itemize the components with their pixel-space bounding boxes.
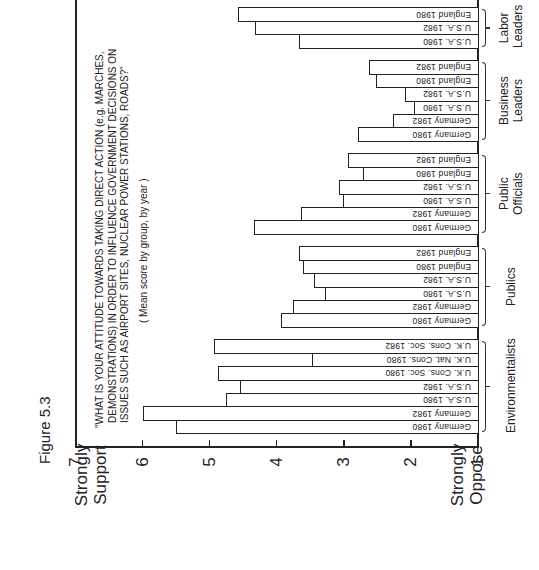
bar-label: Germany 1980: [328, 129, 471, 140]
bar-label: U.S.A. 1982: [328, 274, 471, 285]
bar-label: England 1982: [328, 154, 471, 165]
strongly-support-line-2: Support: [91, 420, 110, 530]
group-label-line: Labor: [497, 7, 511, 47]
bar-label: Germany 1980: [328, 222, 471, 233]
bar-label: U.S.A. 1980: [328, 36, 471, 47]
chart-subtitle: ( Mean score by group, by year ): [138, 49, 151, 428]
group-label-line: Business: [497, 60, 511, 141]
bar-label: U.S.A. 1982: [328, 88, 471, 99]
group-brace-tip: [486, 27, 490, 28]
tick-label: 4: [267, 452, 287, 472]
group-label-line: Publics: [504, 246, 518, 327]
bar-label: Germany 1980: [328, 315, 471, 326]
tick-label: 3: [334, 452, 354, 472]
title-line-1: "WHAT IS YOUR ATTITUDE TOWARDS TAKING DI…: [94, 49, 107, 428]
tick-label: 7: [65, 452, 85, 472]
bar-label: U.S.A. 1980: [328, 288, 471, 299]
group-brace-tip: [486, 193, 490, 194]
group-label: PublicOfficials: [497, 153, 525, 234]
group-label-line: Leaders: [511, 60, 525, 141]
tick-mark: [410, 440, 412, 447]
group-brace-tip: [486, 286, 490, 287]
tick-label: 6: [133, 452, 153, 472]
bar-label: England 1980: [328, 9, 471, 20]
bar-label: U.S.A. 1980: [328, 394, 471, 405]
group-label-line: Environmentalists: [504, 339, 518, 433]
tick-mark: [276, 440, 278, 447]
tick-mark: [343, 440, 345, 447]
bar-label: Germany 1982: [328, 408, 471, 419]
group-label-line: Public: [497, 153, 511, 234]
figure-label: Figure 5.3: [36, 396, 53, 464]
group-label-line: Officials: [511, 153, 525, 234]
group-brace-tip: [486, 100, 490, 101]
title-line-2: DEMONSTRATIONS) IN ORDER TO INFLUENCE GO…: [107, 49, 120, 428]
bar-label: U.S.A. 1982: [328, 181, 471, 192]
bar-label: U.K. Cons. Soc. 1980: [328, 367, 471, 378]
strongly-support-label: Strongly Support: [72, 420, 110, 530]
bar-label: Germany 1980: [328, 421, 471, 432]
bar-label: U.S.A. 1982: [328, 381, 471, 392]
bar-label: U.S.A. 1982: [328, 22, 471, 33]
bar-label: U.K. Cons. Soc. 1982: [328, 340, 471, 351]
title-line-3: ISSUES SUCH AS AIRPORT SITES, NUCLEAR PO…: [119, 49, 132, 428]
bar-label: England 1980: [328, 261, 471, 272]
bar-label: Germany 1982: [328, 208, 471, 219]
tick-label: 1: [468, 452, 488, 472]
group-label: Publics: [504, 246, 518, 327]
left-frame-line: [75, 0, 77, 447]
bar-label: U.S.A. 1980: [328, 102, 471, 113]
bar-label: England 1980: [328, 75, 471, 86]
tick-mark: [142, 440, 144, 447]
bar-label: Germany 1982: [328, 301, 471, 312]
strongly-oppose-label: Strongly Oppose: [448, 420, 486, 530]
chart-title: "WHAT IS YOUR ATTITUDE TOWARDS TAKING DI…: [94, 49, 150, 428]
group-label: BusinessLeaders: [497, 60, 525, 141]
strongly-oppose-line-1: Strongly: [448, 420, 467, 530]
group-brace-tip: [486, 386, 490, 387]
group-label-line: Leaders: [511, 7, 525, 47]
group-label: Environmentalists: [504, 339, 518, 433]
bar-label: England 1982: [328, 247, 471, 258]
group-label: LaborLeaders: [497, 7, 525, 47]
bar-label: U.K. Nat. Cons. 1980: [328, 354, 471, 365]
tick-label: 2: [401, 452, 421, 472]
bar-label: England 1980: [328, 168, 471, 179]
bar-label: England 1982: [328, 61, 471, 72]
tick-label: 5: [200, 452, 220, 472]
bar-label: U.S.A. 1980: [328, 195, 471, 206]
bar-label: Germany 1982: [328, 115, 471, 126]
tick-mark: [209, 440, 211, 447]
